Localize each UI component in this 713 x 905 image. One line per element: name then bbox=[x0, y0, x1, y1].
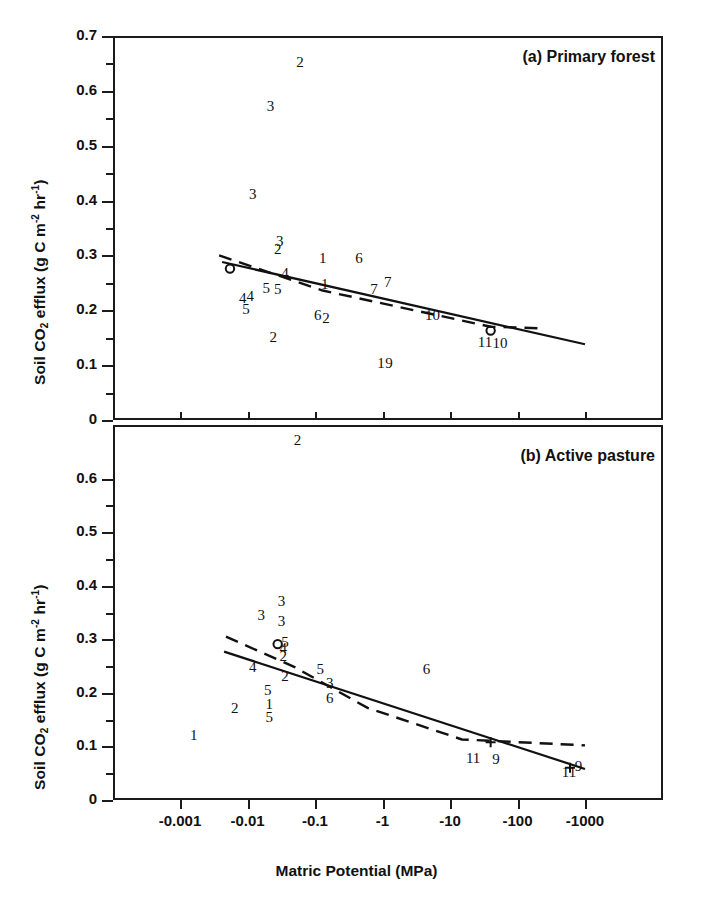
panel-b-title: (b) Active pasture bbox=[520, 447, 655, 465]
data-point-label: 11 bbox=[466, 751, 480, 766]
y-axis-label-sub: 2 bbox=[39, 728, 50, 734]
data-point-label: 6 bbox=[314, 307, 322, 322]
data-point-label: 9 bbox=[575, 758, 583, 773]
y-tick-label-a-0: 0.7 bbox=[27, 26, 97, 43]
y-tick-label-b-2: 0.4 bbox=[27, 576, 97, 593]
x-tick-a-2 bbox=[315, 412, 317, 420]
data-point-label: 2 bbox=[231, 700, 239, 715]
y-tick-b-5 bbox=[102, 746, 113, 748]
data-point-label: 5 bbox=[265, 709, 273, 724]
data-point-label: 9 bbox=[492, 751, 500, 766]
y-tick-label-b-6: 0 bbox=[27, 790, 97, 807]
x-tick-b-3 bbox=[383, 800, 385, 809]
y-tick-label-a-1: 0.6 bbox=[27, 81, 97, 98]
y-minor-tick-b-4 bbox=[106, 720, 113, 722]
data-point-label: 3 bbox=[278, 593, 286, 608]
y-minor-tick-b-2 bbox=[106, 613, 113, 615]
y-minor-tick-a-2 bbox=[106, 173, 113, 175]
y-tick-label-a-3: 0.4 bbox=[27, 191, 97, 208]
y-minor-tick-a-0 bbox=[106, 63, 113, 65]
y-minor-tick-b-3 bbox=[106, 666, 113, 668]
data-point-label: 5 bbox=[242, 302, 250, 317]
x-tick-label-6: -1000 bbox=[545, 812, 625, 829]
panel-a-title: (a) Primary forest bbox=[523, 48, 656, 66]
data-point-label: 7 bbox=[370, 282, 378, 297]
y-tick-b-6 bbox=[102, 800, 113, 802]
x-tick-b-5 bbox=[518, 800, 520, 809]
y-minor-tick-a-6 bbox=[106, 393, 113, 395]
y-tick-b-2 bbox=[102, 586, 113, 588]
x-axis-label: Matric Potential (MPa) bbox=[0, 862, 713, 880]
y-tick-label-a-2: 0.5 bbox=[27, 136, 97, 153]
y-tick-a-3 bbox=[102, 201, 113, 203]
y-minor-tick-a-4 bbox=[106, 283, 113, 285]
data-point-label: 9 bbox=[385, 355, 393, 370]
data-point-label: 4 bbox=[281, 265, 289, 280]
x-tick-a-6 bbox=[585, 412, 587, 420]
y-tick-b-4 bbox=[102, 693, 113, 695]
data-point-label: 4 bbox=[249, 660, 257, 675]
data-point-label: 11 bbox=[478, 335, 492, 350]
y-axis-label-sup1: -2 bbox=[30, 619, 41, 628]
y-tick-a-4 bbox=[102, 255, 113, 257]
data-point-label: 1 bbox=[377, 355, 385, 370]
y-tick-a-0 bbox=[102, 36, 113, 38]
y-minor-tick-a-5 bbox=[106, 338, 113, 340]
y-tick-b-0 bbox=[102, 479, 113, 481]
y-minor-tick-b-5 bbox=[106, 773, 113, 775]
y-tick-label-b-4: 0.2 bbox=[27, 683, 97, 700]
x-tick-a-5 bbox=[518, 412, 520, 420]
data-point-label: 7 bbox=[384, 274, 392, 289]
data-point-label: 2 bbox=[274, 241, 282, 256]
y-tick-a-1 bbox=[102, 91, 113, 93]
y-tick-a-2 bbox=[102, 146, 113, 148]
y-minor-tick-a-3 bbox=[106, 228, 113, 230]
data-point-label: 2 bbox=[281, 668, 289, 683]
data-point-label: 1 bbox=[190, 727, 198, 742]
data-point-label: 3 bbox=[278, 614, 286, 629]
y-axis-label-part3: hr bbox=[31, 599, 48, 619]
y-tick-b-1 bbox=[102, 532, 113, 534]
data-point-label: 2 bbox=[322, 310, 330, 325]
x-tick-b-4 bbox=[450, 800, 452, 809]
data-point-label: 3 bbox=[326, 676, 334, 691]
y-tick-b-3 bbox=[102, 639, 113, 641]
x-tick-a-3 bbox=[383, 412, 385, 420]
y-tick-label-a-6: 0.1 bbox=[27, 355, 97, 372]
y-axis-label-sub: 2 bbox=[39, 323, 50, 329]
data-point-label: 5 bbox=[317, 662, 325, 677]
x-tick-b-0 bbox=[180, 800, 182, 809]
data-point-label: 2 bbox=[280, 649, 288, 664]
x-tick-a-1 bbox=[248, 412, 250, 420]
data-point-label: 10 bbox=[425, 307, 440, 322]
panel-active-pasture: (b) Active pasture 0.60.50.40.30.20.10-0… bbox=[113, 425, 663, 800]
data-point-label: 1 bbox=[321, 276, 329, 291]
data-point-label: 5 bbox=[263, 281, 271, 296]
y-tick-label-a-7: 0 bbox=[27, 410, 97, 427]
data-point-label: 5 bbox=[274, 282, 282, 297]
data-point-label: 10 bbox=[492, 336, 507, 351]
y-minor-tick-b-1 bbox=[106, 559, 113, 561]
y-minor-tick-a-1 bbox=[106, 118, 113, 120]
y-tick-label-b-5: 0.1 bbox=[27, 736, 97, 753]
data-point-label: 6 bbox=[326, 691, 334, 706]
x-tick-b-2 bbox=[315, 800, 317, 809]
panel-primary-forest: (a) Primary forest 0.70.60.50.40.30.20.1… bbox=[113, 36, 663, 420]
panel-b-frame bbox=[113, 425, 663, 800]
data-point-label: 3 bbox=[267, 99, 275, 114]
y-tick-label-b-3: 0.3 bbox=[27, 629, 97, 646]
figure-root: Soil CO2 efflux (g C m-2 hr-1) Soil CO2 … bbox=[0, 0, 713, 905]
x-tick-a-4 bbox=[450, 412, 452, 420]
y-tick-a-7 bbox=[102, 420, 113, 422]
x-tick-b-1 bbox=[248, 800, 250, 809]
y-axis-label-sup1: -2 bbox=[30, 214, 41, 223]
y-tick-a-5 bbox=[102, 310, 113, 312]
data-point-label: 6 bbox=[423, 662, 431, 677]
data-point-label: 2 bbox=[294, 433, 302, 448]
y-minor-tick-b-0 bbox=[106, 505, 113, 507]
y-tick-label-b-1: 0.5 bbox=[27, 522, 97, 539]
y-tick-label-a-5: 0.2 bbox=[27, 300, 97, 317]
data-point-label: 3 bbox=[258, 608, 266, 623]
data-point-label: 1 bbox=[319, 251, 327, 266]
x-tick-b-6 bbox=[585, 800, 587, 809]
